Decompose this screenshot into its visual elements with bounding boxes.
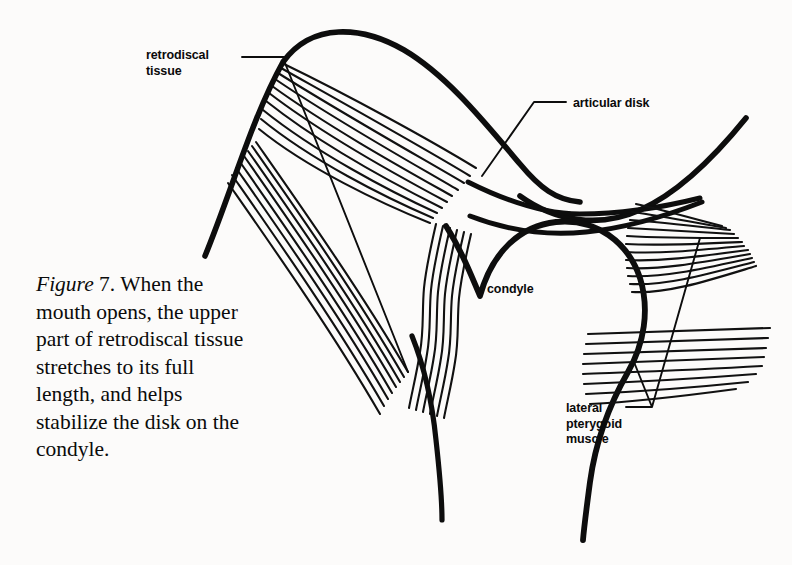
label-articular-disk: articular disk	[573, 96, 649, 112]
caption-body-text: 7. When the mouth opens, the upper part …	[36, 272, 243, 461]
caption-figure-word: Figure	[36, 272, 94, 296]
label-lateral-pterygoid-muscle: lateral pterygoid muscle	[566, 401, 622, 448]
label-retrodiscal-tissue: retrodiscal tissue	[146, 48, 209, 79]
label-condyle: condyle	[487, 282, 534, 298]
figure-page: retrodiscal tissue articular disk condyl…	[0, 0, 792, 565]
figure-caption: Figure 7. When the mouth opens, the uppe…	[36, 271, 246, 464]
